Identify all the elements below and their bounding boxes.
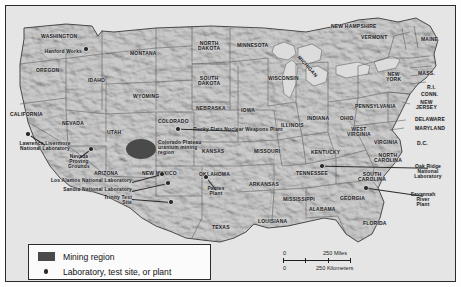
state-label: LOUISIANA — [258, 219, 287, 224]
map-legend: Mining region Laboratory, test site, or … — [28, 244, 211, 280]
facility-marker[interactable] — [176, 127, 179, 130]
state-label: MISSOURI — [254, 149, 280, 154]
map-scale-bar: 0 250 Miles 0 250 Kilometers — [283, 248, 375, 278]
state-label: IDAHO — [88, 78, 105, 83]
state-label: D.C. — [417, 141, 428, 146]
state-label: ARKANSAS — [249, 182, 279, 187]
scale-miles-label: 250 Miles — [323, 250, 347, 256]
state-label: NEW JERSEY — [416, 100, 437, 110]
scale-km-zero: 0 — [283, 265, 286, 271]
state-label: MONTANA — [130, 51, 157, 56]
state-label: R.I. — [427, 85, 436, 90]
state-label: CALIFORNIA — [10, 112, 43, 117]
scale-miles-zero: 0 — [283, 250, 286, 256]
facility-dot-icon — [29, 269, 63, 273]
scale-km-label: 250 Kilometers — [316, 265, 353, 271]
facility-marker[interactable] — [169, 200, 172, 203]
state-label: CONN. — [421, 92, 438, 97]
scale-tick-mid — [305, 258, 306, 263]
state-label: TENNESSEE — [296, 171, 328, 176]
facility-label: Hanford Works — [34, 49, 82, 54]
state-label: NEVADA — [62, 121, 84, 126]
state-label: VERMONT — [361, 35, 387, 40]
state-label: NORTH CAROLINA — [374, 153, 402, 163]
legend-item-facility: Laboratory, test site, or plant — [29, 264, 210, 279]
facility-marker[interactable] — [166, 181, 169, 184]
state-label: WISCONSIN — [268, 76, 299, 81]
state-label: OHIO — [340, 116, 354, 121]
state-label: SOUTH CAROLINA — [358, 172, 386, 182]
facility-label: Lawrence Livermore National Laboratory — [14, 141, 76, 151]
state-label: NEW YORK — [386, 72, 401, 82]
state-label: TEXAS — [212, 225, 230, 230]
mining-swatch-icon — [29, 252, 63, 261]
state-label: MISSISSIPPI — [283, 197, 315, 202]
scale-tick-mid2 — [328, 258, 329, 263]
state-label: NEBRASKA — [196, 106, 226, 111]
state-label: ALABAMA — [309, 207, 336, 212]
state-label: NORTH DAKOTA — [198, 41, 220, 51]
state-label: KENTUCKY — [311, 150, 340, 155]
state-label: ARIZONA — [94, 171, 118, 176]
state-label: SOUTH DAKOTA — [198, 76, 220, 86]
map-frame: WASHINGTONOREGONIDAHOMONTANAWYOMINGCALIF… — [5, 5, 456, 282]
facility-label: Trinity Test Site — [82, 195, 132, 205]
state-label: GEORGIA — [340, 196, 365, 201]
state-label: COLORADO — [158, 119, 189, 124]
state-label: OREGON — [36, 68, 59, 73]
legend-label-mining-region: Mining region — [63, 252, 115, 262]
facility-marker[interactable] — [204, 175, 207, 178]
facility-marker[interactable] — [364, 186, 367, 189]
facility-marker[interactable] — [89, 147, 92, 150]
state-label: NEW HAMPSHIRE — [331, 24, 377, 29]
mining-region-label: Colorado Plateau uranium mining region — [158, 140, 208, 155]
facility-label: Los Alamos National Laboratory — [14, 178, 132, 183]
facility-label: Sandia National Laboratory — [26, 187, 132, 192]
state-label: MASS. — [418, 71, 435, 76]
state-label: VIRGINIA — [374, 140, 398, 145]
state-label: FLORIDA — [363, 221, 387, 226]
state-label: PENNSYLVANIA — [355, 104, 396, 109]
state-label: DELAWARE — [415, 117, 445, 122]
scale-tick-start — [283, 258, 284, 263]
scale-line — [283, 260, 351, 261]
state-label: WASHINGTON — [41, 34, 77, 39]
facility-marker[interactable] — [26, 132, 29, 135]
state-label: MAINE — [421, 37, 438, 42]
facility-marker[interactable] — [320, 164, 323, 167]
state-label: UTAH — [107, 130, 121, 135]
map-canvas[interactable]: WASHINGTONOREGONIDAHOMONTANAWYOMINGCALIF… — [6, 6, 455, 281]
facility-marker[interactable] — [84, 47, 87, 50]
state-label: IOWA — [241, 108, 255, 113]
facility-marker[interactable] — [160, 172, 163, 175]
facility-label: Pantex Plant — [202, 186, 230, 196]
state-label: INDIANA — [307, 116, 329, 121]
map-figure: WASHINGTONOREGONIDAHOMONTANAWYOMINGCALIF… — [0, 0, 461, 287]
scale-tick-end — [350, 258, 351, 263]
facility-label: Oak Ridge National Laboratory — [404, 164, 452, 179]
mining-region-ellipse — [126, 139, 156, 159]
state-label: WYOMING — [133, 94, 159, 99]
legend-label-facility: Laboratory, test site, or plant — [63, 267, 171, 277]
state-label: MARYLAND — [415, 126, 445, 131]
state-label: MINNESOTA — [237, 43, 268, 48]
legend-item-mining-region: Mining region — [29, 249, 210, 264]
state-label: WEST VIRGINIA — [347, 127, 371, 137]
